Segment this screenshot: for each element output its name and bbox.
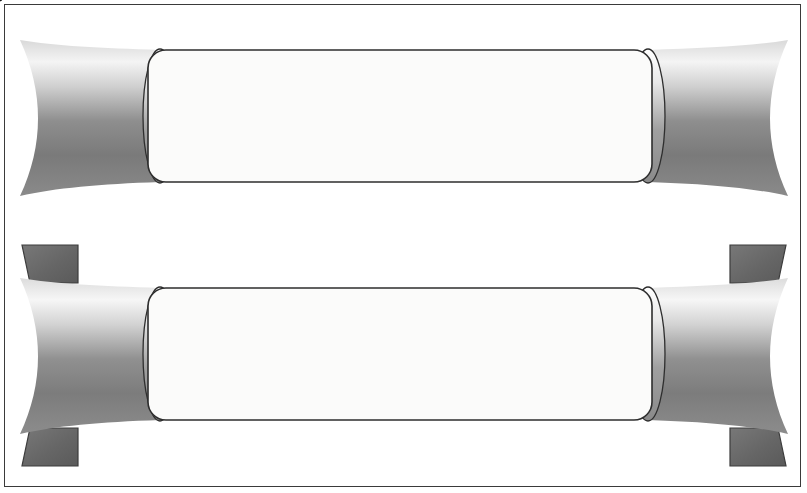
wire-right-segment-top bbox=[648, 40, 788, 196]
wire-left-segment-top bbox=[20, 40, 160, 196]
wire-interior-top bbox=[148, 50, 652, 182]
top-wire-assembly bbox=[20, 40, 788, 196]
negative-terminal-block-lower bbox=[22, 428, 78, 466]
positive-terminal-block bbox=[730, 245, 786, 283]
electron-flow-figure bbox=[0, 0, 807, 493]
wire-interior-bottom bbox=[148, 288, 652, 420]
diagram-canvas bbox=[0, 0, 807, 493]
positive-terminal-block-lower bbox=[730, 428, 786, 466]
wire-right-segment-bottom bbox=[648, 278, 788, 434]
wire-left-segment-bottom bbox=[20, 278, 160, 434]
negative-terminal-block bbox=[22, 245, 78, 283]
